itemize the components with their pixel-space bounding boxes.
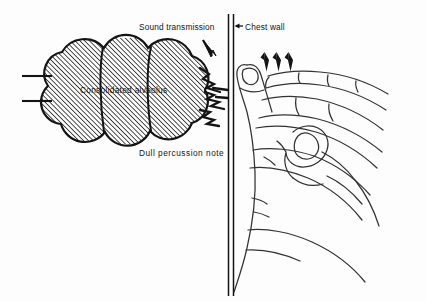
percussing-hand — [234, 65, 388, 292]
medical-illustration: Sound transmission Chest wall Consolidat… — [0, 0, 426, 302]
label-consolidated-alveolus: Consolidated alveolus — [80, 85, 167, 95]
label-chest-wall: Chest wall — [245, 22, 285, 32]
chest-wall-leader-arrow — [235, 24, 244, 29]
label-sound-transmission: Sound transmission — [139, 22, 215, 32]
percussion-arrows — [261, 52, 294, 72]
label-dull-percussion-note: Dull percussion note — [139, 148, 224, 158]
chest-wall — [229, 14, 234, 296]
sound-transmission-arrow — [203, 40, 216, 57]
